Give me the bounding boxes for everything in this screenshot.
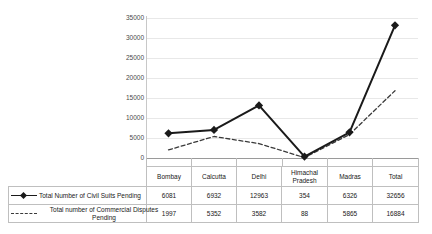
table-cell: 6932 xyxy=(192,187,237,205)
data-table: Bombay Calcutta Delhi Himachal Pradesh M… xyxy=(8,166,419,223)
legend-label-civil-suits: Total Number of Civil Suits Pending xyxy=(39,192,141,199)
table-header-blank xyxy=(9,167,147,187)
table-header-row: Bombay Calcutta Delhi Himachal Pradesh M… xyxy=(9,167,419,187)
table-cell: 5865 xyxy=(328,205,373,223)
legend-item-commercial-disputes: Total number of Commercial Disputes Pend… xyxy=(9,205,147,223)
table-row: Total Number of Civil Suits Pending 6081… xyxy=(9,187,419,205)
series-civil-suits-line xyxy=(169,25,396,156)
table-cell: 5352 xyxy=(192,205,237,223)
table-header-madras: Madras xyxy=(328,167,373,187)
table-header-total: Total xyxy=(373,167,419,187)
legend-label-commercial-disputes: Total number of Commercial Disputes Pend… xyxy=(39,206,169,221)
line-diamond-marker-icon xyxy=(11,192,37,200)
plot-region: 35000 30000 25000 20000 15000 10000 5000… xyxy=(0,0,432,168)
series-lines xyxy=(0,0,432,168)
series-commercial-disputes-line xyxy=(169,91,396,158)
table-cell: 6326 xyxy=(328,187,373,205)
table-cell: 16884 xyxy=(373,205,419,223)
table-cell: 32656 xyxy=(373,187,419,205)
legend-item-civil-suits: Total Number of Civil Suits Pending xyxy=(9,187,147,205)
table-header-himachal-pradesh: Himachal Pradesh xyxy=(282,167,328,187)
table-header-calcutta: Calcutta xyxy=(192,167,237,187)
table-header-bombay: Bombay xyxy=(147,167,192,187)
chart-container: 35000 30000 25000 20000 15000 10000 5000… xyxy=(0,0,432,234)
table-cell: 88 xyxy=(282,205,328,223)
series-civil-suits-markers xyxy=(164,21,399,161)
table-header-delhi: Delhi xyxy=(237,167,282,187)
table-cell: 3582 xyxy=(237,205,282,223)
table-row: Total number of Commercial Disputes Pend… xyxy=(9,205,419,223)
dashed-line-marker-icon xyxy=(11,210,37,218)
table-cell: 12963 xyxy=(237,187,282,205)
table-cell: 6081 xyxy=(147,187,192,205)
table-cell: 354 xyxy=(282,187,328,205)
